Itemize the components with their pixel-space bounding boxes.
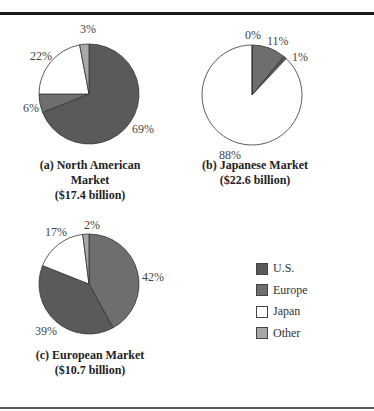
- caption-c-value: ($10.7 billion): [25, 363, 155, 378]
- legend-label-europe: Europe: [273, 283, 308, 298]
- legend-swatch-europe: [256, 284, 268, 296]
- pie-european-market: [39, 234, 139, 334]
- caption-north-american-market: (a) North American Market ($17.4 billion…: [20, 158, 160, 203]
- caption-japanese-market: (b) Japanese Market ($22.6 billion): [195, 158, 315, 188]
- legend: U.S. Europe Japan Other: [256, 258, 308, 344]
- caption-b-value: ($22.6 billion): [195, 173, 315, 188]
- pie-c-label-us: 39%: [35, 324, 57, 338]
- pie-a-label-japan: 22%: [30, 49, 52, 63]
- legend-item-japan: Japan: [256, 301, 308, 323]
- caption-a-title: (a) North American Market: [20, 158, 160, 188]
- legend-label-us: U.S.: [273, 261, 294, 276]
- caption-a-value: ($17.4 billion): [20, 188, 160, 203]
- pie-b-label-europe: 11%: [267, 34, 289, 48]
- pie-c-label-japan: 17%: [45, 225, 67, 239]
- caption-european-market: (c) European Market ($10.7 billion): [25, 348, 155, 378]
- pie-c-label-europe: 42%: [142, 270, 164, 284]
- pie-b-label-us: 1%: [292, 50, 308, 64]
- pie-c-label-other: 2%: [84, 218, 100, 232]
- pie-a-label-other: 3%: [80, 22, 96, 36]
- legend-label-japan: Japan: [273, 304, 300, 319]
- pie-japanese-market: [202, 45, 302, 145]
- pie-north-american-market: [39, 44, 139, 144]
- legend-item-us: U.S.: [256, 258, 308, 280]
- caption-b-title: (b) Japanese Market: [195, 158, 315, 173]
- pie-a-label-us: 69%: [132, 122, 154, 136]
- legend-label-other: Other: [273, 326, 300, 341]
- pie-a-label-europe: 6%: [23, 101, 39, 115]
- legend-swatch-other: [256, 327, 268, 339]
- legend-swatch-japan: [256, 306, 268, 318]
- legend-item-other: Other: [256, 323, 308, 345]
- caption-c-title: (c) European Market: [25, 348, 155, 363]
- pie-b-label-other: 0%: [245, 28, 261, 42]
- legend-swatch-us: [256, 263, 268, 275]
- bottom-rule: [0, 407, 374, 409]
- legend-item-europe: Europe: [256, 280, 308, 302]
